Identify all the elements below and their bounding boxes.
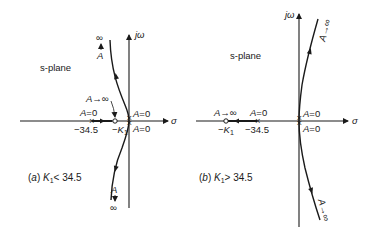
zero-gain-b: A→∞ <box>213 107 237 118</box>
origin-gain-upper-a: A=0 <box>132 108 150 119</box>
pointer-arrow-a <box>111 101 115 117</box>
pole-value-b: −34.5 <box>245 124 269 135</box>
upper-inf-a: ∞ <box>96 32 103 43</box>
root-locus-diagram: jω σ × × × s-plane ∞ A A→∞ A=0 −34.5 −K1… <box>0 0 378 235</box>
jw-label-b: jω <box>283 9 295 20</box>
real-locus-arrow-b <box>234 119 239 124</box>
sigma-label-b: σ <box>352 115 359 126</box>
lower-arrow-a <box>112 165 118 172</box>
caption-a: (a) K1< 34.5 <box>28 172 82 184</box>
panel-a: jω σ × × × s-plane ∞ A A→∞ A=0 −34.5 −K1… <box>20 29 178 213</box>
origin-gain-lower-b: A=0 <box>302 123 320 134</box>
origin-gain-lower-a: A=0 <box>132 123 150 134</box>
zero-marker-a <box>113 119 117 123</box>
plane-label-b: s-plane <box>230 50 261 61</box>
sigma-label-a: σ <box>171 115 178 126</box>
zero-marker-b <box>224 119 228 123</box>
plane-label-a: s-plane <box>40 62 71 73</box>
pole-gain-b: A=0 <box>249 107 267 118</box>
lower-A-a: A <box>110 184 117 195</box>
zero-gain-a: A→∞ <box>85 93 109 104</box>
pole-gain-a: A=0 <box>79 107 97 118</box>
zero-value-b: −K1 <box>218 124 234 136</box>
upper-A-a: A <box>96 50 103 61</box>
origin-gain-upper-b: A=0 <box>302 108 320 119</box>
caption-b: (b) K1> 34.5 <box>199 172 253 184</box>
lower-inf-a: ∞ <box>110 202 117 213</box>
jw-label-a: jω <box>133 29 145 40</box>
panel-b: jω σ × × × s-plane A→∞ A→∞ A→∞ A=0 −K1 −… <box>196 9 359 227</box>
lower-end-b: A→∞ <box>316 197 333 223</box>
upper-end-b: A→∞ <box>316 18 333 44</box>
real-locus-arrow-a <box>100 119 105 124</box>
pole-value-a: −34.5 <box>74 124 98 135</box>
